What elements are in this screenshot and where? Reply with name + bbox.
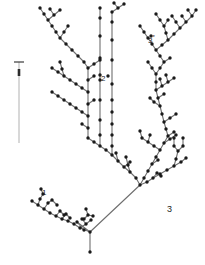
branch-node xyxy=(146,60,149,63)
branch-node xyxy=(122,165,125,168)
branch-node xyxy=(166,38,169,41)
branch-node xyxy=(162,24,165,27)
branch-node xyxy=(162,60,165,63)
branch-node xyxy=(54,30,57,33)
branch-node xyxy=(98,16,101,19)
branch-node xyxy=(174,133,177,136)
branch-node xyxy=(54,214,57,217)
branch-node xyxy=(110,20,113,23)
branch-node xyxy=(164,31,167,34)
branch-node xyxy=(80,110,83,113)
branch-node xyxy=(50,90,53,93)
branch-node xyxy=(86,78,89,81)
branch-node xyxy=(150,162,153,165)
branch-node xyxy=(48,7,51,10)
branch-node xyxy=(68,78,71,81)
scale-bar-arrow-marker xyxy=(18,69,21,76)
branch-node xyxy=(58,36,61,39)
branch-node xyxy=(158,66,161,69)
branch-node xyxy=(176,149,179,152)
branch-node xyxy=(154,12,157,15)
branch-node xyxy=(172,144,175,147)
branch-node xyxy=(64,212,67,215)
branch-node xyxy=(164,73,167,76)
branch-node xyxy=(114,151,117,154)
branch-node xyxy=(166,134,169,137)
branch-segment xyxy=(90,185,140,232)
branch-node xyxy=(92,98,95,101)
branch-node xyxy=(92,140,95,143)
branch-node xyxy=(172,164,175,167)
branch-node xyxy=(172,136,175,139)
branch-node xyxy=(84,222,87,225)
branch-node xyxy=(166,18,169,21)
branch-node xyxy=(86,90,89,93)
branch-node xyxy=(98,98,101,101)
branch-node xyxy=(174,157,177,160)
branch-node xyxy=(158,77,161,80)
branch-node xyxy=(160,43,163,46)
branch-node xyxy=(112,1,115,4)
branch-node xyxy=(98,118,101,121)
branch-node xyxy=(88,230,91,233)
branch-node xyxy=(179,160,182,163)
branch-node xyxy=(86,66,89,69)
branch-node xyxy=(170,14,173,17)
branch-node xyxy=(62,30,65,33)
branch-node xyxy=(50,198,53,201)
branch-node xyxy=(145,180,148,183)
branch-node xyxy=(156,96,159,99)
branch-node xyxy=(126,163,129,166)
branch-node xyxy=(116,6,119,9)
branch-node xyxy=(46,18,49,21)
branch-node xyxy=(84,207,87,210)
branch-node xyxy=(178,26,181,29)
branch-node xyxy=(82,217,85,220)
branch-node xyxy=(148,133,151,136)
branch-node xyxy=(160,112,163,115)
branch-node xyxy=(36,203,39,206)
branch-node xyxy=(98,144,101,147)
point-label-2: 2 xyxy=(101,75,105,83)
branch-node xyxy=(46,201,49,204)
branch-node xyxy=(72,222,75,225)
branch-node xyxy=(168,56,171,59)
branch-node xyxy=(138,183,141,186)
branch-node xyxy=(56,94,59,97)
branch-node xyxy=(172,76,175,79)
branch-node xyxy=(104,148,107,151)
branch-node xyxy=(160,84,163,87)
branch-node xyxy=(91,214,94,217)
branch-node xyxy=(110,38,113,41)
branch-node xyxy=(86,102,89,105)
branch-node xyxy=(154,88,157,91)
branch-node xyxy=(138,129,141,132)
branch-node xyxy=(128,170,131,173)
branch-node xyxy=(66,219,69,222)
branch-node xyxy=(116,159,119,162)
branch-node xyxy=(74,106,77,109)
branch-node xyxy=(146,140,149,143)
branch-node xyxy=(98,34,101,37)
branch-node xyxy=(150,66,153,69)
branch-node-layer xyxy=(30,1,197,253)
branch-node xyxy=(62,74,65,77)
branch-node xyxy=(172,130,175,133)
branch-node xyxy=(92,62,95,65)
branch-node xyxy=(154,155,157,158)
branch-node xyxy=(75,220,78,223)
branch-node xyxy=(180,14,183,17)
branch-node xyxy=(138,24,141,27)
branch-node xyxy=(124,155,127,158)
branch-node xyxy=(110,122,113,125)
branch-node xyxy=(98,58,101,61)
branch-node xyxy=(154,80,157,83)
branch-node xyxy=(58,60,61,63)
branch-node xyxy=(110,82,113,85)
branch-node xyxy=(165,168,168,171)
branch-node xyxy=(110,98,113,101)
branch-node xyxy=(68,216,71,219)
branch-node xyxy=(110,10,113,13)
branch-node xyxy=(82,228,85,231)
branch-node xyxy=(190,14,193,17)
